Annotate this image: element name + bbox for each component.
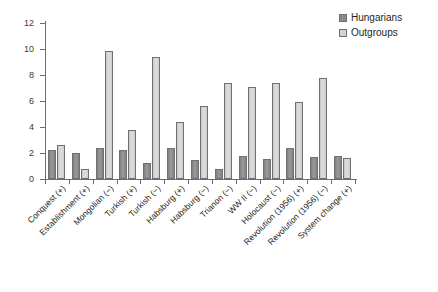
bar-hungarians <box>96 148 104 179</box>
bar-hungarians <box>263 159 271 179</box>
bar-outgroups <box>200 106 208 179</box>
y-tick-label-6: 6 <box>0 97 34 106</box>
bar-outgroups <box>272 83 280 179</box>
y-tick-label-8: 8 <box>0 71 34 80</box>
bar-hungarians <box>334 156 342 179</box>
bar-hungarians <box>239 156 247 179</box>
bar-group <box>96 23 114 179</box>
y-tick-label-12: 12 <box>0 19 34 28</box>
plot-area <box>45 23 355 179</box>
legend-swatch-icon-hungarians <box>339 14 347 22</box>
bar-group <box>191 23 209 179</box>
chart-legend: Hungarians Outgroups <box>339 11 402 41</box>
bar-outgroups <box>319 78 327 179</box>
bar-group <box>215 23 233 179</box>
bar-group <box>239 23 257 179</box>
bar-outgroups <box>152 57 160 179</box>
legend-item-hungarians: Hungarians <box>339 11 402 24</box>
bar-chart: 024681012 Conquest (+)Establishment (+)M… <box>0 0 438 292</box>
legend-label-outgroups: Outgroups <box>351 26 398 39</box>
bar-outgroups <box>128 130 136 179</box>
bar-group <box>167 23 185 179</box>
bar-outgroups <box>105 51 113 179</box>
bar-outgroups <box>295 102 303 179</box>
bar-outgroups <box>224 83 232 179</box>
bar-group <box>263 23 281 179</box>
bar-outgroups <box>57 145 65 179</box>
bar-group <box>72 23 90 179</box>
legend-label-hungarians: Hungarians <box>351 11 402 24</box>
bar-hungarians <box>167 148 175 179</box>
bar-group <box>119 23 137 179</box>
bar-group <box>310 23 328 179</box>
bar-group <box>143 23 161 179</box>
y-tick-label-10: 10 <box>0 45 34 54</box>
x-axis-labels: Conquest (+)Establishment (+)Mongolian (… <box>0 184 438 292</box>
y-tick-label-0: 0 <box>0 175 34 184</box>
bar-outgroups <box>248 87 256 179</box>
bar-hungarians <box>119 150 127 179</box>
bar-hungarians <box>143 163 151 179</box>
bar-group <box>286 23 304 179</box>
bar-hungarians <box>310 157 318 179</box>
bar-group <box>334 23 352 179</box>
bar-outgroups <box>343 158 351 179</box>
bar-outgroups <box>176 122 184 179</box>
y-tick-label-4: 4 <box>0 123 34 132</box>
bar-group <box>48 23 66 179</box>
legend-item-outgroups: Outgroups <box>339 26 402 39</box>
bar-hungarians <box>191 160 199 180</box>
bar-hungarians <box>215 169 223 179</box>
bar-hungarians <box>72 153 80 179</box>
bar-outgroups <box>81 169 89 179</box>
y-tick-label-2: 2 <box>0 149 34 158</box>
legend-swatch-icon-outgroups <box>339 29 347 37</box>
bar-hungarians <box>48 150 56 179</box>
bar-hungarians <box>286 148 294 179</box>
